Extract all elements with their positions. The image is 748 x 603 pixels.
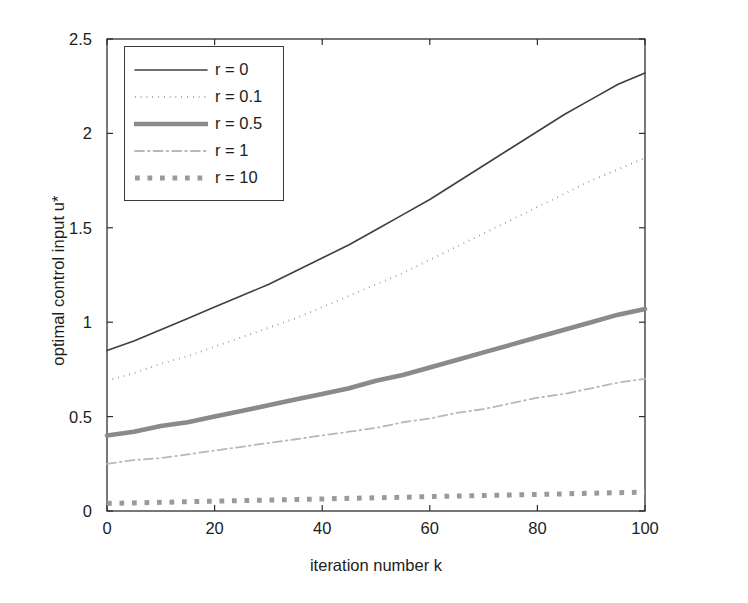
legend-item: r = 0.5 [134, 110, 275, 137]
figure-canvas: optimal control input u* iteration numbe… [0, 0, 748, 603]
legend-item: r = 10 [134, 164, 275, 191]
legend-sample-line [134, 115, 208, 133]
x-tick-label: 100 [615, 519, 675, 538]
legend-item: r = 1 [134, 137, 275, 164]
legend-item-label: r = 0 [215, 61, 248, 78]
x-axis-label: iteration number k [107, 556, 645, 575]
plot-area [0, 0, 748, 603]
y-axis-label: optimal control input u* [49, 131, 68, 431]
x-tick-label: 0 [77, 519, 137, 538]
y-tick-label: 1 [34, 313, 92, 332]
x-tick-label: 20 [185, 519, 245, 538]
x-tick-label: 80 [507, 519, 567, 538]
y-tick-label: 2 [34, 124, 92, 143]
legend-sample-line [134, 88, 208, 106]
legend-item-label: r = 0.1 [215, 88, 262, 105]
legend-item-label: r = 0.5 [215, 115, 262, 132]
x-tick-label: 40 [292, 519, 352, 538]
legend-sample-line [134, 169, 208, 187]
y-tick-label: 0.5 [34, 407, 92, 426]
legend-item: r = 0.1 [134, 83, 275, 110]
legend-box: r = 0 r = 0.1 r = 0.5 r = 1 r = 10 [124, 46, 284, 201]
x-tick-label: 60 [400, 519, 460, 538]
legend-sample-line [134, 142, 208, 160]
legend-item: r = 0 [134, 56, 275, 83]
y-tick-label: 0 [34, 502, 92, 521]
legend-item-label: r = 10 [215, 169, 258, 186]
y-tick-label: 2.5 [34, 30, 92, 49]
y-tick-label: 1.5 [34, 218, 92, 237]
legend-item-label: r = 1 [215, 142, 248, 159]
legend-sample-line [134, 61, 208, 79]
